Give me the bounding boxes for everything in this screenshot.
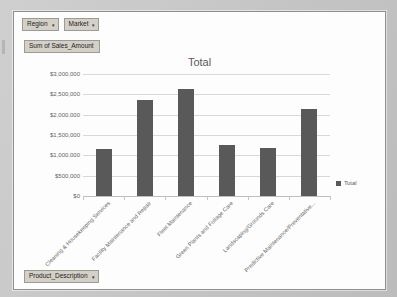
legend-swatch-total: [336, 181, 341, 186]
x-axis-category-labels: Cleaning & Housekeeping ServicesFacility…: [14, 198, 385, 260]
y-axis-tick-label: $1,000,000: [50, 152, 80, 158]
filter-button-market-label: Market: [69, 21, 89, 28]
bar[interactable]: [219, 145, 235, 196]
y-axis-tick-label: $1,500,000: [50, 132, 80, 138]
bar[interactable]: [178, 89, 194, 196]
bar-series-total: [83, 74, 330, 196]
filter-button-region[interactable]: Region ▾: [22, 18, 59, 31]
filter-field-buttons: Region ▾ Market ▾: [22, 18, 99, 31]
axis-field-button-wrap: Product_Description ▾: [24, 264, 99, 283]
bar-slot: [248, 74, 289, 196]
bar-slot: [83, 74, 124, 196]
value-field-button-label: Sum of Sales_Amount: [29, 43, 94, 50]
y-axis-tick-label: $2,000,000: [50, 112, 80, 118]
axis-field-button-label: Product_Description: [29, 273, 88, 280]
bar-slot: [165, 74, 206, 196]
x-axis-category-label: Predictive Maintenance/Preventative...: [244, 200, 317, 273]
chart-legend: Total: [336, 180, 357, 186]
bar[interactable]: [137, 100, 153, 196]
pivot-chart-frame: Region ▾ Market ▾ Sum of Sales_Amount To…: [13, 11, 386, 290]
value-field-button-wrap: Sum of Sales_Amount: [24, 34, 100, 53]
screenshot-root: Region ▾ Market ▾ Sum of Sales_Amount To…: [0, 0, 397, 297]
chevron-down-icon: ▾: [52, 22, 55, 27]
y-axis-tick-label: $2,500,000: [50, 91, 80, 97]
bar-slot: [124, 74, 165, 196]
value-field-button-sum-of-sales-amount[interactable]: Sum of Sales_Amount: [24, 40, 100, 53]
legend-label-total: Total: [344, 180, 357, 186]
chart-plot-area: $3,000,000$2,500,000$2,000,000$1,500,000…: [14, 74, 385, 259]
plot-region: [83, 74, 330, 196]
bar-slot: [207, 74, 248, 196]
axis-field-button-product-description[interactable]: Product_Description ▾: [24, 270, 99, 283]
chevron-down-icon: ▾: [92, 22, 95, 27]
bar[interactable]: [96, 149, 112, 196]
chart-title: Total: [14, 56, 385, 68]
bar-slot: [289, 74, 330, 196]
bar[interactable]: [301, 109, 317, 196]
filter-button-region-label: Region: [27, 21, 48, 28]
x-axis-category-label: Cleaning & Housekeeping Services: [43, 200, 110, 267]
y-axis-tick-label: $3,000,000: [50, 71, 80, 77]
x-axis-category-label: Fleet Maintenance: [156, 200, 193, 237]
y-axis-tick-label: $500,000: [55, 173, 80, 179]
bar[interactable]: [260, 148, 276, 196]
chevron-down-icon: ▾: [92, 274, 95, 279]
y-axis-tick-labels: $3,000,000$2,500,000$2,000,000$1,500,000…: [22, 74, 80, 196]
background-artifact: [2, 40, 5, 54]
filter-button-market[interactable]: Market ▾: [64, 18, 100, 31]
